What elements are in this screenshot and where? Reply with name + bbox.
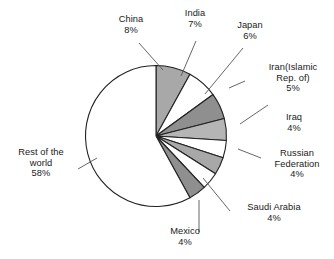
slice-label-mexico-value: 4% bbox=[156, 237, 214, 248]
slice-label-iran-name: Iran(Islamic bbox=[256, 62, 330, 73]
slice-label-iraq-name: Iraq bbox=[272, 112, 316, 123]
leader-line-saudi-arabia bbox=[203, 178, 230, 211]
leader-line-india bbox=[181, 41, 196, 76]
slice-label-saudi-name: Saudi Arabia bbox=[234, 202, 314, 213]
leader-line-japan bbox=[205, 48, 243, 94]
slice-label-saudi-arabia: Saudi Arabia 4% bbox=[234, 202, 314, 223]
slice-label-rest-of-the-world: Rest of the world 58% bbox=[6, 147, 76, 179]
slice-label-iran: Iran(Islamic Rep. of) 5% bbox=[256, 62, 330, 94]
leader-line-iraq bbox=[240, 105, 268, 124]
slice-label-iran-name-2: Rep. of) bbox=[256, 73, 330, 84]
pie-chart-figure: China 8% India 7% Japan 6% Iran(Islamic … bbox=[0, 0, 334, 259]
slice-label-japan-value: 6% bbox=[224, 31, 276, 42]
slice-label-rest-value: 58% bbox=[6, 168, 76, 179]
slice-label-iraq: Iraq 4% bbox=[272, 112, 316, 133]
slice-label-russia-value: 4% bbox=[262, 169, 332, 180]
slice-label-russian-federation: Russian Federation 4% bbox=[262, 148, 332, 180]
slice-label-china-value: 8% bbox=[102, 25, 160, 36]
slice-label-rest-name: Rest of the bbox=[6, 147, 76, 158]
slice-label-japan: Japan 6% bbox=[224, 20, 276, 41]
slice-label-china-name: China bbox=[102, 14, 160, 25]
leader-line-russian-federation bbox=[238, 149, 261, 158]
slice-label-japan-name: Japan bbox=[224, 20, 276, 31]
slice-label-china: China 8% bbox=[102, 14, 160, 35]
slice-label-india-name: India bbox=[170, 8, 220, 19]
slice-label-mexico-name: Mexico bbox=[156, 226, 214, 237]
slice-label-india: India 7% bbox=[170, 8, 220, 29]
slice-label-mexico: Mexico 4% bbox=[156, 226, 214, 247]
slice-label-saudi-value: 4% bbox=[234, 213, 314, 224]
slice-label-iran-value: 5% bbox=[256, 83, 330, 94]
slice-label-india-value: 7% bbox=[170, 19, 220, 30]
slice-label-iraq-value: 4% bbox=[272, 123, 316, 134]
pie-slices-group bbox=[85, 65, 226, 206]
slice-label-russia-name: Russian bbox=[262, 148, 332, 159]
slice-label-rest-name-2: world bbox=[6, 158, 76, 169]
leader-line-iran bbox=[229, 81, 245, 88]
slice-label-russia-name-2: Federation bbox=[262, 159, 332, 170]
